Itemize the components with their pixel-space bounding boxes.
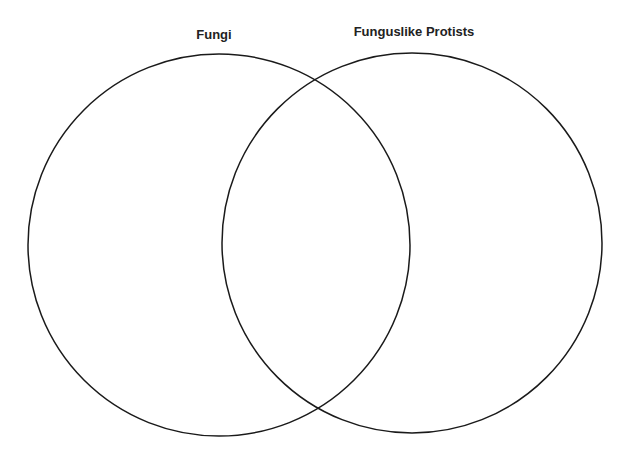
fungi-label: Fungi: [196, 27, 231, 42]
venn-diagram: Fungi Funguslike Protists: [0, 0, 624, 461]
funguslike-protists-label: Funguslike Protists: [354, 24, 475, 39]
fungi-circle: [28, 54, 410, 436]
funguslike-protists-circle: [222, 53, 602, 433]
